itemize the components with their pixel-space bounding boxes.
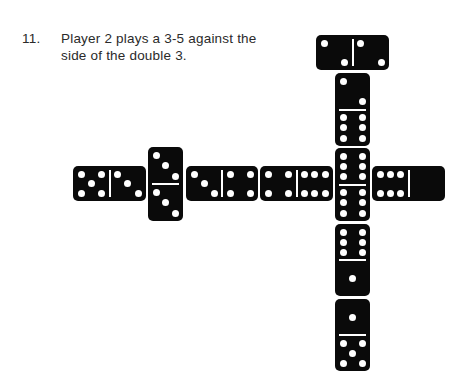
domino-6-6	[335, 148, 370, 221]
pip	[359, 98, 366, 105]
pip	[247, 190, 254, 197]
pip	[88, 180, 95, 187]
pip	[340, 163, 347, 170]
pip	[340, 78, 347, 85]
domino-half-4	[260, 166, 297, 201]
domino-half-5	[73, 166, 110, 201]
domino-half-2	[353, 35, 390, 70]
pip	[227, 190, 234, 197]
domino-half-6	[335, 185, 370, 222]
pip	[340, 340, 347, 347]
domino-half-2	[316, 35, 353, 70]
pip	[349, 275, 356, 282]
pip	[265, 171, 272, 178]
domino-3-3	[148, 147, 183, 221]
domino-2-6	[335, 73, 370, 146]
pip	[340, 229, 347, 236]
pip	[301, 171, 308, 178]
pip	[191, 171, 198, 178]
pip	[387, 171, 394, 178]
pip	[359, 239, 366, 246]
pip	[359, 153, 366, 160]
pip	[340, 135, 347, 142]
domino-half-4	[222, 166, 258, 201]
pip	[359, 189, 366, 196]
pip	[340, 124, 347, 131]
domino-1-5	[335, 299, 370, 371]
pip	[359, 199, 366, 206]
domino-half-3	[148, 184, 183, 221]
domino-half-6	[297, 166, 334, 201]
pip	[359, 229, 366, 236]
domino-half-5	[335, 335, 370, 371]
pip	[340, 210, 347, 217]
pip	[340, 249, 347, 256]
pip	[285, 190, 292, 197]
domino-half-3	[148, 147, 183, 184]
pip	[311, 171, 318, 178]
pip	[153, 189, 160, 196]
pip	[247, 171, 254, 178]
domino-2-2	[316, 35, 389, 70]
pip	[378, 59, 385, 66]
pip	[162, 162, 169, 169]
pip	[172, 210, 179, 217]
pip	[397, 171, 404, 178]
domino-half-6	[335, 224, 370, 260]
domino-5-3	[73, 166, 146, 201]
domino-half-0	[409, 166, 446, 201]
pip	[359, 210, 366, 217]
pip	[265, 190, 272, 197]
pip	[359, 173, 366, 180]
pip	[349, 350, 356, 357]
pip	[340, 239, 347, 246]
pip	[340, 114, 347, 121]
domino-half-3	[186, 166, 222, 201]
pip	[135, 190, 142, 197]
pip	[124, 180, 131, 187]
pip	[359, 114, 366, 121]
pip	[340, 360, 347, 367]
caption-line-2: side of the double 3.	[61, 47, 187, 64]
pip	[340, 189, 347, 196]
pip	[153, 152, 160, 159]
pip	[359, 124, 366, 131]
pip	[311, 190, 318, 197]
pip	[359, 249, 366, 256]
pip	[78, 190, 85, 197]
pip	[321, 40, 328, 47]
pip	[397, 190, 404, 197]
pip	[211, 190, 218, 197]
domino-3-4	[186, 166, 258, 201]
pip	[285, 171, 292, 178]
domino-half-1	[335, 299, 370, 335]
pip	[340, 153, 347, 160]
pip	[114, 171, 121, 178]
pip	[98, 190, 105, 197]
pip	[340, 199, 347, 206]
pip	[377, 190, 384, 197]
pip	[322, 190, 329, 197]
domino-6-0	[372, 166, 445, 201]
pip	[227, 171, 234, 178]
domino-half-3	[110, 166, 147, 201]
domino-6-1	[335, 224, 370, 296]
caption-line-1: Player 2 plays a 3-5 against the	[61, 30, 257, 47]
domino-4-6	[260, 166, 333, 201]
step-number: 11.	[22, 30, 40, 47]
pip	[98, 171, 105, 178]
pip	[201, 180, 208, 187]
pip	[359, 135, 366, 142]
pip	[341, 59, 348, 66]
domino-half-1	[335, 260, 370, 296]
pip	[359, 163, 366, 170]
pip	[78, 171, 85, 178]
pip	[359, 340, 366, 347]
pip	[359, 360, 366, 367]
pip	[301, 190, 308, 197]
pip	[340, 173, 347, 180]
domino-half-6	[335, 148, 370, 185]
pip	[172, 173, 179, 180]
pip	[322, 171, 329, 178]
pip	[357, 40, 364, 47]
